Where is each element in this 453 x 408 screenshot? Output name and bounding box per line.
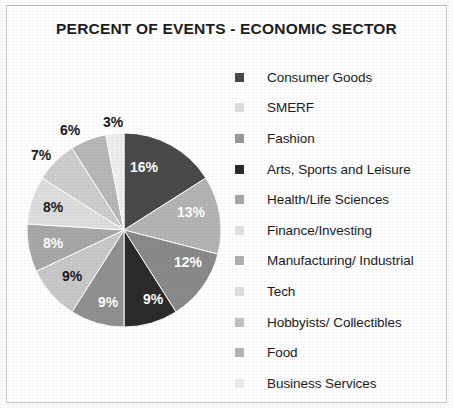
pie-slice-label: 8% (43, 200, 63, 214)
legend-item: Tech (231, 276, 446, 307)
legend-swatch-icon (235, 287, 244, 296)
pie-slice-label: 3% (103, 115, 123, 129)
legend-swatch-icon (235, 134, 244, 143)
legend-item: SMERF (231, 93, 446, 124)
pie-chart-svg (27, 133, 221, 327)
legend-item: Consumer Goods (231, 62, 446, 93)
legend-item-label: Finance/Investing (267, 223, 372, 238)
pie-slice-group (27, 133, 221, 327)
legend-item-label: Food (267, 345, 298, 360)
legend-item-label: SMERF (267, 100, 314, 115)
legend-swatch-icon (235, 256, 244, 265)
page-title: PERCENT OF EVENTS - ECONOMIC SECTOR (0, 20, 453, 38)
legend-swatch-icon (235, 379, 244, 388)
legend-item: Fashion (231, 123, 446, 154)
legend-item: Manufacturing/ Industrial (231, 246, 446, 277)
legend-item: Food (231, 337, 446, 368)
pie-slice-label: 6% (60, 123, 80, 137)
legend-swatch-icon (235, 195, 244, 204)
legend-item-label: Consumer Goods (267, 70, 372, 85)
legend-item: Health/Life Sciences (231, 184, 446, 215)
pie-slice-label: 8% (43, 236, 63, 250)
pie-chart (27, 133, 221, 327)
legend-swatch-icon (235, 165, 244, 174)
legend-item-label: Manufacturing/ Industrial (267, 253, 414, 268)
pie-slice-label: 13% (177, 205, 205, 219)
legend-swatch-icon (235, 318, 244, 327)
pie-slice-label: 9% (62, 269, 82, 283)
legend-item: Arts, Sports and Leisure (231, 154, 446, 185)
legend-item-label: Business Services (267, 376, 376, 391)
legend-item-label: Arts, Sports and Leisure (267, 162, 411, 177)
legend-swatch-icon (235, 73, 244, 82)
chart-page: PERCENT OF EVENTS - ECONOMIC SECTOR 16%1… (0, 0, 453, 408)
legend-swatch-icon (235, 348, 244, 357)
pie-slice-label: 16% (130, 160, 158, 174)
chart-legend: Consumer GoodsSMERFFashionArts, Sports a… (231, 62, 446, 399)
legend-item-label: Health/Life Sciences (267, 192, 389, 207)
pie-slice-label: 9% (98, 295, 118, 309)
legend-item: Finance/Investing (231, 215, 446, 246)
legend-swatch-icon (235, 226, 244, 235)
pie-slice-label: 7% (31, 148, 51, 162)
pie-slice-label: 9% (143, 292, 163, 306)
pie-slice-label: 12% (174, 255, 202, 269)
legend-item: Business Services (231, 368, 446, 399)
legend-item: Hobbyists/ Collectibles (231, 307, 446, 338)
legend-item-label: Fashion (267, 131, 315, 146)
legend-item-label: Tech (267, 284, 295, 299)
legend-item-label: Hobbyists/ Collectibles (267, 315, 402, 330)
legend-swatch-icon (235, 103, 244, 112)
